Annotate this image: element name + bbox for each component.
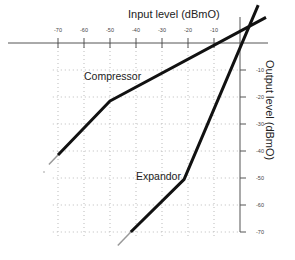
- y-tick-label: -40: [256, 148, 264, 154]
- x-tick-label: -50: [106, 27, 114, 33]
- expandor-label: Expandor: [136, 170, 181, 182]
- x-tick-label: -20: [184, 27, 192, 33]
- expandor-line: [131, 5, 258, 232]
- compander-chart: Input level (dBmO) Output level (dBmO) -…: [0, 0, 295, 260]
- x-tick-label: -30: [158, 27, 166, 33]
- x-tick-label: -70: [54, 27, 62, 33]
- x-tick-label: -40: [132, 27, 140, 33]
- compressor-extension: [49, 155, 58, 164]
- y-tick-label: -20: [256, 94, 264, 100]
- expandor-extension: [118, 232, 131, 246]
- y-tick-label: -30: [256, 121, 264, 127]
- y-tick-label: -70: [256, 229, 264, 235]
- stray-dot: [43, 171, 45, 173]
- plot-area: -70-60-50-40-30-20-10-10-20-30-40-50-60-…: [0, 0, 295, 260]
- x-tick-label: -10: [210, 27, 218, 33]
- x-tick-label: -60: [80, 27, 88, 33]
- y-tick-label: -50: [256, 175, 264, 181]
- y-tick-label: -10: [256, 67, 264, 73]
- y-tick-label: -60: [256, 202, 264, 208]
- compressor-label: Compressor: [84, 70, 141, 82]
